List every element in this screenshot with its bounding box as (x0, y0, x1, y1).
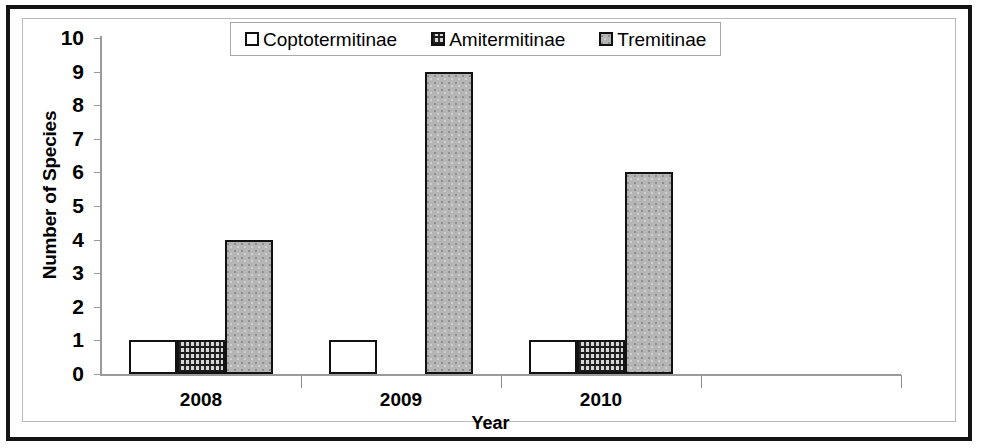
chart-legend: CoptotermitinaeAmitermitinaeTremitinae (230, 22, 721, 56)
y-axis-tick-label: 0 (72, 361, 84, 387)
legend-item: Tremitinae (599, 30, 706, 49)
y-axis-tick: 6 (94, 172, 101, 173)
bar (625, 172, 673, 374)
y-axis-tick: 5 (94, 206, 101, 207)
x-axis-tick (701, 375, 702, 388)
x-axis-tick (501, 375, 502, 388)
legend-swatch-icon (431, 32, 445, 46)
y-axis-tick: 3 (94, 273, 101, 274)
y-axis-tick-label: 8 (72, 92, 84, 118)
y-axis-tick: 1 (94, 340, 101, 341)
bar (529, 340, 577, 374)
bar (425, 72, 473, 374)
y-axis-tick: 4 (94, 240, 101, 241)
y-axis-tick-label: 9 (72, 59, 84, 85)
y-axis-tick-label: 10 (61, 25, 84, 51)
legend-label: Amitermitinae (449, 30, 565, 49)
legend-label: Tremitinae (617, 30, 706, 49)
y-axis-tick-label: 4 (72, 227, 84, 253)
y-axis-tick: 9 (94, 72, 101, 73)
x-axis-tick (301, 375, 302, 388)
x-axis-category-label: 2009 (301, 389, 501, 411)
bar (577, 340, 625, 374)
x-axis-tick (901, 375, 902, 388)
bar (329, 340, 377, 374)
y-axis-tick: 0 (94, 374, 101, 375)
y-axis-tick-label: 7 (72, 126, 84, 152)
legend-label: Coptotermitinae (263, 30, 397, 49)
y-axis-title: Number of Species (39, 65, 61, 325)
y-axis-tick-label: 2 (72, 294, 84, 320)
plot-canvas: 109876543210 (101, 38, 901, 374)
bar (177, 340, 225, 374)
y-axis-tick: 8 (94, 105, 101, 106)
y-axis-tick: 7 (94, 139, 101, 140)
y-axis-tick-label: 3 (72, 260, 84, 286)
y-axis-tick: 10 (94, 38, 101, 39)
y-axis-tick-label: 6 (72, 159, 84, 185)
x-axis-title: Year (0, 413, 981, 434)
bar (225, 240, 273, 374)
legend-item: Coptotermitinae (245, 30, 397, 49)
legend-item: Amitermitinae (431, 30, 565, 49)
y-axis-tick-label: 5 (72, 193, 84, 219)
legend-swatch-icon (599, 32, 613, 46)
x-axis-category-label: 2010 (501, 389, 701, 411)
bar (129, 340, 177, 374)
x-axis-category-label: 2008 (101, 389, 301, 411)
chart-figure: Number of Species 109876543210 200820092… (0, 0, 981, 448)
legend-swatch-icon (245, 32, 259, 46)
y-axis-tick: 2 (94, 307, 101, 308)
y-axis-tick-label: 1 (72, 327, 84, 353)
